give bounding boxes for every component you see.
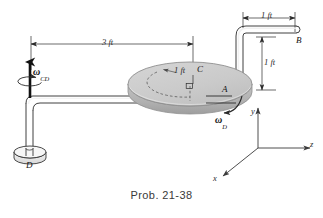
axis-x-line (223, 148, 258, 176)
point-label-b: B (296, 36, 302, 45)
mechanics-diagram (0, 0, 323, 218)
disk-top-face (128, 62, 252, 106)
figure-root: 3 ft 1 ft 1 ft 1 ft C A B D ωCD ωD y z x… (0, 0, 323, 218)
rod-ab-cap-b (296, 26, 300, 33)
point-label-c: C (197, 65, 203, 74)
axis-label-x: x (213, 174, 217, 183)
axis-label-z: z (310, 140, 313, 149)
axis-label-y: y (251, 107, 255, 116)
omega-cd-label: ωCD (33, 62, 49, 81)
coordinate-axes (223, 108, 310, 176)
dimension-top-1ft-label: 1 ft (261, 11, 272, 20)
omega-d-label: ωD (215, 110, 227, 129)
dimension-3ft-label: 3 ft (102, 38, 113, 47)
figure-caption: Prob. 21-38 (0, 189, 323, 201)
dimension-right-1ft-label: 1 ft (264, 58, 275, 67)
omega-d-subscript: D (222, 123, 227, 130)
point-label-a: A (222, 85, 228, 94)
point-label-d: D (26, 161, 33, 170)
dimension-radius-1ft-label: 1 ft (174, 66, 185, 75)
collar-top (14, 146, 46, 158)
omega-cd-subscript: CD (40, 75, 49, 82)
